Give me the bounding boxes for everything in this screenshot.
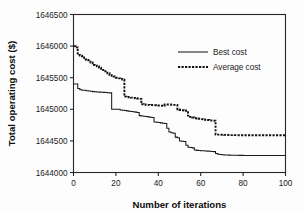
y-tick-label: 1646000 [36, 42, 68, 51]
x-tick-label: 20 [111, 179, 121, 188]
y-tick-label: 1645000 [36, 105, 68, 114]
legend-label-2: Average cost [213, 63, 261, 72]
x-tick-label: 40 [154, 179, 164, 188]
x-tick-label: 100 [279, 179, 293, 188]
x-axis-title: Number of iterations [133, 199, 227, 210]
x-tick-label: 0 [71, 179, 76, 188]
plot-frame [74, 15, 286, 173]
series-line-best-cost [74, 84, 286, 155]
y-tick-label: 1646500 [36, 11, 68, 20]
x-tick-label: 60 [196, 179, 206, 188]
chart-canvas: 1644000164450016450001645500164600016465… [0, 0, 303, 214]
y-tick-label: 1644000 [36, 169, 68, 178]
series-line-average-cost [74, 46, 286, 135]
y-tick-label: 1644500 [36, 137, 68, 146]
y-tick-label: 1645500 [36, 74, 68, 83]
y-axis-title: Total operating cost ($) [6, 41, 17, 146]
chart-figure: 1644000164450016450001645500164600016465… [0, 0, 303, 214]
x-tick-label: 80 [239, 179, 249, 188]
legend-label-1: Best cost [213, 48, 247, 57]
